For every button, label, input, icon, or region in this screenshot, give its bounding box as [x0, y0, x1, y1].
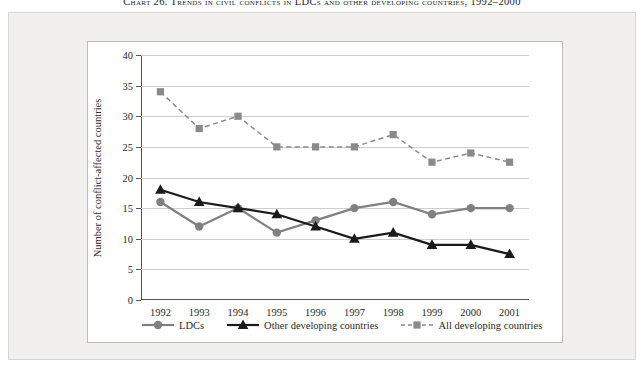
x-axis-tick-label: 1992 [150, 307, 171, 318]
data-point-circle [389, 198, 397, 206]
data-point-circle [428, 210, 436, 218]
data-point-square [414, 321, 421, 328]
legend-label: LDCs [179, 320, 204, 331]
x-axis-tick-label: 1994 [228, 307, 249, 318]
chart-card: 0510152025303540 19921993199419951996199… [87, 41, 563, 343]
data-point-square [351, 143, 358, 150]
series-line [160, 92, 509, 162]
y-axis-title: Number of conflict-affected countries [92, 98, 103, 257]
legend-label: Other developing countries [264, 320, 378, 331]
data-point-square [273, 143, 280, 150]
chart-page: Chart 26. Trends in civil conflicts in L… [0, 0, 644, 370]
y-axis-tick-label: 30 [123, 111, 134, 122]
x-axis-tick-label: 1998 [383, 307, 404, 318]
x-axis-tick-label: 2000 [460, 307, 481, 318]
data-point-square [506, 159, 513, 166]
data-point-square [390, 131, 397, 138]
x-axis-tick-label: 1995 [266, 307, 287, 318]
y-axis-tick [136, 300, 141, 301]
series-layer [141, 55, 529, 300]
data-point-triangle [155, 184, 166, 194]
y-axis-tick-label: 0 [128, 295, 133, 306]
data-point-square [157, 88, 164, 95]
y-axis-tick-label: 20 [123, 172, 134, 183]
series-line [160, 202, 509, 233]
x-axis-tick-label: 2001 [499, 307, 520, 318]
x-axis-tick-label: 1999 [422, 307, 443, 318]
chart-legend: LDCsOther developing countriesAll develo… [141, 318, 541, 332]
data-point-circle [467, 204, 475, 212]
x-axis-tick-label: 1993 [189, 307, 210, 318]
y-axis-tick-label: 25 [123, 141, 134, 152]
y-axis-tick-label: 15 [123, 203, 134, 214]
chart-caption: Chart 26. Trends in civil conflicts in L… [0, 0, 644, 7]
data-point-square [196, 125, 203, 132]
legend-item-all-developing-countries[interactable]: All developing countries [400, 318, 542, 332]
plot-area: 0510152025303540 19921993199419951996199… [141, 55, 529, 300]
chart-caption-text: Chart 26. Trends in civil conflicts in L… [123, 0, 521, 7]
y-axis-tick-label: 35 [123, 80, 134, 91]
legend-swatch-triangle-icon [226, 318, 260, 332]
legend-swatch-square-icon [400, 318, 434, 332]
data-point-triangle [388, 227, 399, 237]
x-axis-tick-label: 1996 [305, 307, 326, 318]
data-point-circle [350, 204, 358, 212]
y-axis-tick-label: 5 [128, 264, 133, 275]
x-axis-tick-label: 1997 [344, 307, 365, 318]
legend-label: All developing countries [438, 320, 542, 331]
data-point-circle [156, 198, 164, 206]
data-point-square [234, 113, 241, 120]
data-point-circle [195, 222, 203, 230]
data-point-circle [273, 228, 281, 236]
legend-item-ldcs[interactable]: LDCs [141, 318, 204, 332]
y-axis-tick-label: 10 [123, 233, 134, 244]
legend-swatch-circle-icon [141, 318, 175, 332]
figure-panel: 0510152025303540 19921993199419951996199… [8, 12, 636, 360]
data-point-square [312, 143, 319, 150]
data-point-square [467, 149, 474, 156]
data-point-circle [154, 321, 162, 329]
data-point-square [428, 159, 435, 166]
series-all-developing-countries [157, 88, 513, 166]
series-line [160, 190, 509, 254]
legend-item-other-developing-countries[interactable]: Other developing countries [226, 318, 378, 332]
y-axis-tick-label: 40 [123, 50, 134, 61]
data-point-circle [505, 204, 513, 212]
